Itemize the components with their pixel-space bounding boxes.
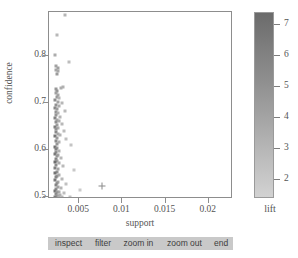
x-tick-mark xyxy=(78,198,79,203)
x-tick-label: 0.02 xyxy=(186,205,230,215)
x-tick-label: 0.015 xyxy=(143,205,187,215)
data-point[interactable] xyxy=(63,14,66,17)
colorbar-tick-label: 4 xyxy=(284,112,289,122)
data-point[interactable] xyxy=(67,61,70,64)
x-tick-mark xyxy=(165,198,166,203)
zoom-in-button[interactable]: zoom in xyxy=(117,239,160,248)
colorbar-tick-label: 2 xyxy=(284,174,289,184)
y-tick-label: 0.6 xyxy=(6,144,46,154)
colorbar-tick-mark xyxy=(274,55,280,56)
filter-button[interactable]: filter xyxy=(89,239,117,248)
colorbar-title: lift xyxy=(250,203,290,214)
data-point[interactable] xyxy=(54,195,57,197)
colorbar-tick-mark xyxy=(274,179,280,180)
data-point[interactable] xyxy=(61,165,64,168)
colorbar-tick-mark xyxy=(274,86,280,87)
data-point[interactable] xyxy=(56,34,59,37)
end-button[interactable]: end xyxy=(209,239,233,248)
colorbar-tick-label: 3 xyxy=(284,143,289,153)
data-point[interactable] xyxy=(62,129,65,132)
data-points-layer[interactable] xyxy=(49,12,231,197)
inspect-button[interactable]: inspect xyxy=(48,239,89,248)
data-point[interactable] xyxy=(58,133,61,136)
y-tick-label: 0.5 xyxy=(6,191,46,201)
x-tick-mark xyxy=(121,198,122,203)
x-axis-label: support xyxy=(48,218,232,228)
data-point[interactable] xyxy=(65,138,68,141)
data-point[interactable] xyxy=(58,149,61,152)
data-point[interactable] xyxy=(58,97,61,100)
colorbar-tick-label: 6 xyxy=(284,50,289,60)
y-tick-label: 0.8 xyxy=(6,50,46,60)
data-point[interactable] xyxy=(57,196,60,197)
colorbar-tick-mark xyxy=(274,117,280,118)
colorbar-tick-label: 5 xyxy=(284,81,289,91)
lift-colorbar xyxy=(254,12,274,198)
data-point[interactable] xyxy=(60,156,63,159)
colorbar-tick-mark xyxy=(274,24,280,25)
data-point[interactable] xyxy=(69,144,72,147)
plot-panel[interactable] xyxy=(48,11,232,198)
plot-toolbar[interactable]: inspectfilterzoom inzoom outend xyxy=(48,237,233,250)
x-tick-label: 0.005 xyxy=(56,205,100,215)
colorbar-tick-mark xyxy=(274,148,280,149)
scatter-plot-app: confidence 0.50.60.70.8 0.0050.010.0150.… xyxy=(0,0,298,258)
data-point[interactable] xyxy=(64,183,67,186)
data-point[interactable] xyxy=(61,102,64,105)
x-tick-label: 0.01 xyxy=(99,205,143,215)
data-point[interactable] xyxy=(73,169,76,172)
selected-data-point[interactable] xyxy=(98,182,105,189)
data-point[interactable] xyxy=(59,115,62,118)
data-point[interactable] xyxy=(69,195,72,197)
data-point[interactable] xyxy=(78,188,81,191)
data-point[interactable] xyxy=(63,109,66,112)
data-point[interactable] xyxy=(60,122,63,125)
data-point[interactable] xyxy=(60,177,63,180)
data-point[interactable] xyxy=(60,86,63,89)
data-point[interactable] xyxy=(54,54,57,57)
colorbar-tick-label: 7 xyxy=(284,19,289,29)
zoom-out-button[interactable]: zoom out xyxy=(160,239,209,248)
x-tick-mark xyxy=(208,198,209,203)
data-point[interactable] xyxy=(55,72,58,75)
data-point[interactable] xyxy=(61,195,64,197)
data-point[interactable] xyxy=(59,186,62,189)
y-tick-label: 0.7 xyxy=(6,97,46,107)
